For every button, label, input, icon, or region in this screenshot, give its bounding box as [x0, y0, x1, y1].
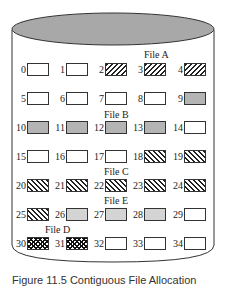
disk-block-19 [184, 150, 206, 163]
block-number-label: 26 [49, 210, 65, 220]
disk-block-21 [66, 179, 88, 192]
block-number-label: 24 [167, 181, 183, 191]
block-number-label: 31 [49, 239, 65, 249]
disk-block-10 [27, 121, 49, 134]
block-number-label: 4 [167, 65, 183, 75]
disk-block-0 [27, 63, 49, 76]
block-number-label: 9 [167, 94, 183, 104]
block-number-label: 34 [167, 239, 183, 249]
block-number-label: 3 [127, 65, 143, 75]
block-number-label: 17 [88, 152, 104, 162]
disk-block-5 [27, 92, 49, 105]
disk-block-25 [27, 208, 49, 221]
block-number-label: 20 [10, 181, 26, 191]
disk-block-13 [144, 121, 166, 134]
block-number-label: 28 [127, 210, 143, 220]
disk-block-15 [27, 150, 49, 163]
block-number-label: 8 [127, 94, 143, 104]
block-number-label: 2 [88, 65, 104, 75]
disk-block-24 [184, 179, 206, 192]
disk-block-23 [144, 179, 166, 192]
disk-block-14 [184, 121, 206, 134]
block-number-label: 0 [10, 65, 26, 75]
disk-block-33 [144, 237, 166, 250]
disk-block-12 [105, 121, 127, 134]
block-number-label: 10 [10, 123, 26, 133]
disk-block-27 [105, 208, 127, 221]
block-number-label: 5 [10, 94, 26, 104]
file-d-label: File D [45, 225, 70, 235]
disk-block-9 [184, 92, 206, 105]
block-number-label: 23 [127, 181, 143, 191]
block-number-label: 25 [10, 210, 26, 220]
disk-block-22 [105, 179, 127, 192]
block-number-label: 6 [49, 94, 65, 104]
block-number-label: 27 [88, 210, 104, 220]
disk-block-17 [105, 150, 127, 163]
block-number-label: 13 [127, 123, 143, 133]
block-number-label: 14 [167, 123, 183, 133]
block-number-label: 18 [127, 152, 143, 162]
disk-block-6 [66, 92, 88, 105]
disk-block-8 [144, 92, 166, 105]
file-a-label: File A [144, 50, 169, 60]
file-b-label: File B [104, 110, 129, 120]
block-number-label: 7 [88, 94, 104, 104]
block-number-label: 33 [127, 239, 143, 249]
disk-block-28 [144, 208, 166, 221]
block-number-label: 21 [49, 181, 65, 191]
disk-block-34 [184, 237, 206, 250]
disk-block-30 [27, 237, 49, 250]
disk-block-16 [66, 150, 88, 163]
file-c-label: File C [104, 167, 129, 177]
disk-block-1 [66, 63, 88, 76]
block-number-label: 1 [49, 65, 65, 75]
block-number-label: 22 [88, 181, 104, 191]
disk-block-29 [184, 208, 206, 221]
figure-caption: Figure 11.5 Contiguous File Allocation [12, 274, 196, 286]
block-number-label: 30 [10, 239, 26, 249]
block-number-label: 29 [167, 210, 183, 220]
disk-block-3 [144, 63, 166, 76]
disk-block-4 [184, 63, 206, 76]
disk-block-11 [66, 121, 88, 134]
disk-block-31 [66, 237, 88, 250]
block-number-label: 11 [49, 123, 65, 133]
disk-block-26 [66, 208, 88, 221]
block-number-label: 15 [10, 152, 26, 162]
disk-block-7 [105, 92, 127, 105]
block-number-label: 32 [88, 239, 104, 249]
block-number-label: 12 [88, 123, 104, 133]
disk-block-18 [144, 150, 166, 163]
disk-block-2 [105, 63, 127, 76]
file-e-label: File E [104, 196, 128, 206]
disk-top-ellipse [12, 13, 214, 45]
disk-block-20 [27, 179, 49, 192]
block-number-label: 19 [167, 152, 183, 162]
block-number-label: 16 [49, 152, 65, 162]
disk-block-32 [105, 237, 127, 250]
